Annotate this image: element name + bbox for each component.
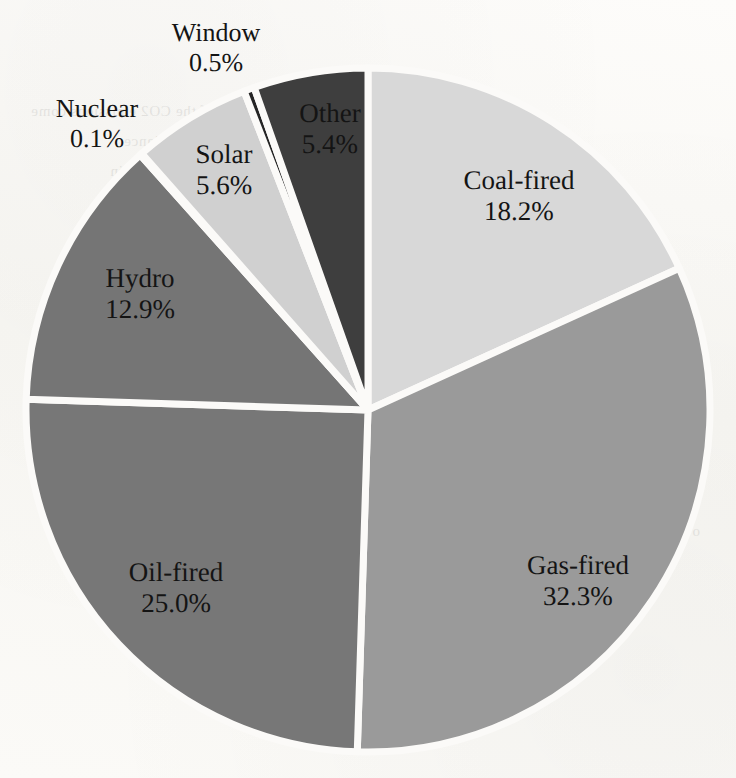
pie-label-name-coal-fired: Coal-fired	[464, 165, 575, 196]
pie-label-value-oil-fired: 25.0%	[129, 588, 223, 619]
pie-label-value-gas-fired: 32.3%	[527, 581, 629, 612]
pie-label-other: Other5.4%	[299, 98, 360, 161]
pie-label-value-coal-fired: 18.2%	[464, 196, 575, 227]
pie-label-value-nuclear: 0.1%	[56, 124, 138, 154]
pie-label-solar: Solar5.6%	[196, 139, 253, 202]
pie-slice-group	[26, 68, 710, 752]
pie-label-hydro: Hydro12.9%	[105, 263, 175, 326]
pie-label-gas-fired: Gas-fired32.3%	[527, 550, 629, 613]
pie-label-oil-fired: Oil-fired25.0%	[129, 557, 223, 620]
pie-label-value-window: 0.5%	[172, 48, 261, 78]
pie-label-name-nuclear: Nuclear	[56, 94, 138, 124]
pie-label-name-solar: Solar	[196, 139, 253, 170]
pie-chart: Coal-fired18.2%Gas-fired32.3%Oil-fired25…	[0, 0, 736, 778]
pie-label-name-oil-fired: Oil-fired	[129, 557, 223, 588]
pie-label-value-hydro: 12.9%	[105, 294, 175, 325]
pie-label-value-solar: 5.6%	[196, 170, 253, 201]
pie-label-name-other: Other	[299, 98, 360, 129]
pie-label-name-gas-fired: Gas-fired	[527, 550, 629, 581]
pie-label-coal-fired: Coal-fired18.2%	[464, 165, 575, 228]
pie-label-name-window: Window	[172, 18, 261, 48]
pie-label-nuclear: Nuclear0.1%	[56, 94, 138, 154]
pie-label-name-hydro: Hydro	[105, 263, 175, 294]
pie-label-value-other: 5.4%	[299, 129, 360, 160]
pie-label-window: Window0.5%	[172, 18, 261, 78]
